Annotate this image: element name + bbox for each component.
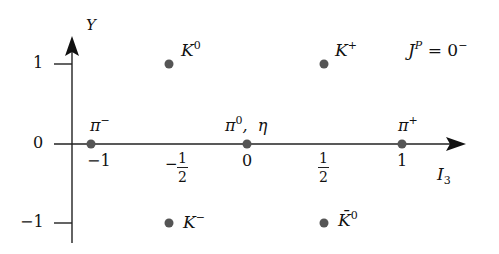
particle-name: π <box>90 116 101 135</box>
jp-J: J <box>408 40 415 60</box>
particle-sup: − <box>196 211 205 224</box>
dot-Kplus <box>320 60 329 69</box>
x-tick-label-half: 1 2 <box>318 151 329 184</box>
frac-bar <box>318 167 329 168</box>
label-K0: K0 <box>181 42 201 59</box>
particle-sup: 0 <box>194 39 201 52</box>
particle-sup: + <box>348 39 357 52</box>
y-tick-label-0: 0 <box>33 135 43 151</box>
x-tick-label-0: 0 <box>242 153 252 169</box>
x-tick-label-minus-half-sign: − <box>165 157 178 172</box>
frac-num: 1 <box>177 151 188 165</box>
dot-K0 <box>165 60 174 69</box>
particle-sup: 0 <box>236 114 243 127</box>
particle-name: π <box>225 116 236 135</box>
meson-octet-diagram: Y I3 1 0 −1 −1 − 1 2 0 1 2 1 K0 K+ π− π0… <box>0 0 499 254</box>
dot-pi0-eta <box>243 140 252 149</box>
dot-Kminus <box>165 219 174 228</box>
y-tick-label-1: 1 <box>33 55 43 71</box>
x-tick-label-minus1: −1 <box>87 153 111 169</box>
label-pi0-eta: π0, η <box>225 118 267 134</box>
frac-den: 2 <box>177 170 188 184</box>
label-Kplus: K+ <box>335 42 357 59</box>
particle-name: K̄ <box>338 210 351 230</box>
particle-name: π <box>398 116 409 135</box>
particle-sup: + <box>409 114 418 127</box>
particle-sup: − <box>101 114 110 127</box>
dot-piplus <box>398 140 407 149</box>
spin-parity-label: JP = 0− <box>408 42 467 59</box>
frac-num: 1 <box>318 151 329 165</box>
particle-name: K <box>181 40 194 60</box>
frac-bar <box>177 167 188 168</box>
frac-den: 2 <box>318 170 329 184</box>
particle-name: K <box>183 212 196 232</box>
particle-name: K <box>335 40 348 60</box>
label-piplus: π+ <box>398 118 418 134</box>
y-tick-label-minus1: −1 <box>20 214 44 230</box>
dot-piminus <box>87 140 96 149</box>
x-axis-label-main: I <box>437 164 444 184</box>
label-piminus: π− <box>90 118 110 134</box>
y-axis-label: Y <box>86 18 96 33</box>
jp-sign: − <box>458 39 467 52</box>
label-K0bar: K̄0 <box>338 212 358 229</box>
x-axis-label-sub: 3 <box>444 174 451 187</box>
particle-sup: 0 <box>351 209 358 222</box>
dot-K0bar <box>320 219 329 228</box>
jp-value: 0 <box>447 40 458 60</box>
x-axis-label: I3 <box>437 166 451 186</box>
x-tick-label-1: 1 <box>397 153 407 169</box>
particle-extra: , η <box>243 116 268 135</box>
x-tick-label-minus-half: 1 2 <box>177 151 188 184</box>
label-Kminus: K− <box>183 214 205 231</box>
